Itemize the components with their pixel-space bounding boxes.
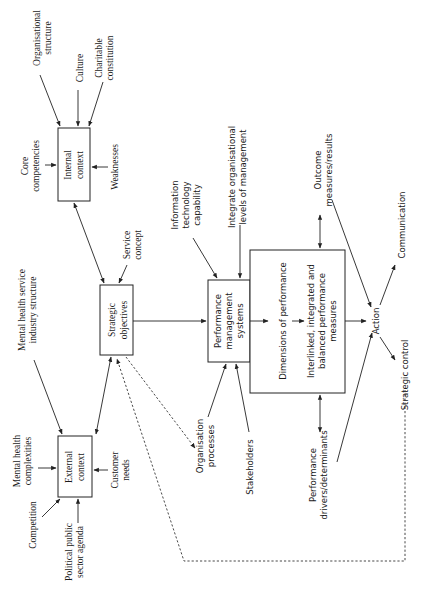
svg-text:Charitable: Charitable: [94, 38, 104, 78]
svg-text:Interlinked, integrated and: Interlinked, integrated and: [306, 264, 316, 378]
svg-text:Performance: Performance: [308, 448, 318, 502]
svg-text:measures/results: measures/results: [324, 133, 334, 206]
weaknesses-label: Weaknesses: [110, 144, 120, 190]
arrow-internal-strategic: [74, 203, 104, 283]
performance-drivers-label: Performance drivers/determinants: [308, 430, 329, 520]
svg-text:Integrate organisational: Integrate organisational: [227, 126, 237, 228]
svg-text:balanced performance: balanced performance: [317, 273, 327, 369]
svg-text:Information: Information: [170, 180, 180, 229]
svg-text:complexities: complexities: [23, 436, 33, 485]
arrow-external-strategic: [96, 357, 111, 434]
organisational-structure-label: Organisational structure: [32, 10, 53, 66]
charitable-constitution-label: Charitable constitution: [94, 35, 115, 80]
arrow-competition: [42, 499, 60, 517]
svg-text:Internal: Internal: [63, 150, 73, 180]
customer-needs-label: Customer needs: [110, 451, 131, 489]
arrow-service-concept: [119, 265, 127, 283]
svg-text:Action: Action: [371, 308, 381, 335]
svg-text:management: management: [224, 292, 234, 350]
svg-text:context: context: [75, 151, 85, 179]
strategic-control-label: Strategic control: [400, 340, 410, 411]
integrate-levels-label: Integrate organisational levels of manag…: [227, 126, 248, 228]
svg-text:Dimensions of performance: Dimensions of performance: [278, 262, 288, 380]
dashed-arrow-org-processes: [126, 357, 195, 448]
core-competencies-label: Core competencies: [20, 140, 41, 192]
svg-text:Outcome: Outcome: [313, 151, 323, 190]
mental-health-complexities-label: Mental health complexities: [12, 435, 33, 488]
arrow-communication: [380, 265, 395, 305]
svg-text:objectives: objectives: [119, 300, 129, 339]
svg-text:drivers/determinants: drivers/determinants: [319, 430, 329, 520]
svg-text:context: context: [76, 453, 86, 481]
svg-text:Service: Service: [122, 231, 132, 260]
svg-text:capability: capability: [192, 184, 202, 225]
svg-text:Weaknesses: Weaknesses: [110, 144, 120, 190]
mental-health-industry-label: Mental health service industry structure: [17, 269, 38, 351]
action-label: Action: [371, 308, 381, 335]
dimensions-label: Dimensions of performance: [278, 262, 288, 380]
svg-text:Communication: Communication: [397, 192, 407, 259]
arrow-org-processes: [208, 364, 226, 417]
svg-text:structure: structure: [43, 21, 53, 54]
svg-text:Organisation: Organisation: [195, 419, 205, 473]
svg-text:systems: systems: [235, 303, 245, 339]
svg-text:levels of management: levels of management: [238, 129, 248, 225]
service-concept-label: Service concept: [122, 230, 143, 260]
svg-text:industry structure: industry structure: [28, 277, 38, 344]
svg-text:Strategic control: Strategic control: [400, 340, 410, 411]
svg-text:technology: technology: [181, 181, 191, 228]
svg-text:sector agenda: sector agenda: [75, 525, 85, 578]
svg-text:Organisational: Organisational: [32, 10, 42, 66]
it-capability-label: Information technology capability: [170, 180, 202, 229]
svg-text:processes: processes: [206, 424, 216, 467]
svg-text:External: External: [64, 451, 74, 484]
arrow-it-capability: [193, 238, 217, 278]
svg-text:Core: Core: [20, 157, 30, 175]
svg-text:Strategic: Strategic: [107, 303, 117, 337]
svg-text:Customer: Customer: [110, 451, 120, 489]
arrow-stakeholders: [236, 364, 249, 432]
svg-text:Performance: Performance: [213, 294, 223, 348]
culture-label: Culture: [75, 54, 85, 83]
svg-text:Mental health service: Mental health service: [17, 269, 27, 351]
arrow-industry-structure: [34, 360, 62, 434]
svg-text:measures: measures: [328, 300, 338, 342]
svg-text:Competition: Competition: [28, 501, 38, 549]
svg-text:Culture: Culture: [75, 54, 85, 83]
competition-label: Competition: [28, 501, 38, 549]
outcome-measures-label: Outcome measures/results: [313, 133, 334, 206]
political-agenda-label: Political public sector agenda: [64, 523, 85, 581]
svg-text:concept: concept: [133, 230, 143, 260]
svg-text:Mental health: Mental health: [12, 435, 22, 488]
arrow-strategic-control: [380, 337, 395, 360]
svg-text:constitution: constitution: [105, 35, 115, 80]
svg-text:needs: needs: [121, 459, 131, 481]
svg-text:Stakeholders: Stakeholders: [245, 439, 255, 495]
arrow-org-structure: [40, 75, 60, 126]
svg-text:Political public: Political public: [64, 523, 74, 581]
organisation-processes-label: Organisation processes: [195, 419, 216, 473]
arrow-charitable: [89, 82, 103, 126]
svg-text:competencies: competencies: [31, 140, 41, 192]
stakeholders-label: Stakeholders: [245, 439, 255, 495]
communication-label: Communication: [397, 192, 407, 259]
performance-management-diagram: Internal context External context Strate…: [0, 0, 423, 597]
